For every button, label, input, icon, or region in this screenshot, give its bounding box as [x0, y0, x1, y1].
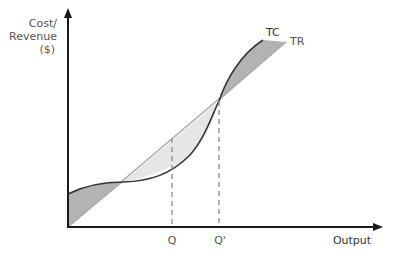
- q-prime-tick-label: Q': [214, 234, 226, 247]
- q-tick-label: Q: [168, 234, 177, 247]
- x-axis-arrow-icon: [373, 223, 383, 231]
- tc-curve: [68, 40, 263, 194]
- tc-label: TC: [265, 26, 280, 39]
- y-label-line3: ($): [39, 43, 55, 56]
- tr-label: TR: [289, 35, 305, 48]
- chart-canvas: Cost/ Revenue ($) TC TR Q Q' Output: [0, 0, 398, 260]
- y-label-line2: Revenue: [9, 30, 57, 43]
- tr-line: [68, 42, 286, 227]
- x-axis-label: Output: [333, 234, 372, 247]
- y-label-line1: Cost/: [29, 17, 57, 30]
- y-axis-arrow-icon: [64, 8, 72, 18]
